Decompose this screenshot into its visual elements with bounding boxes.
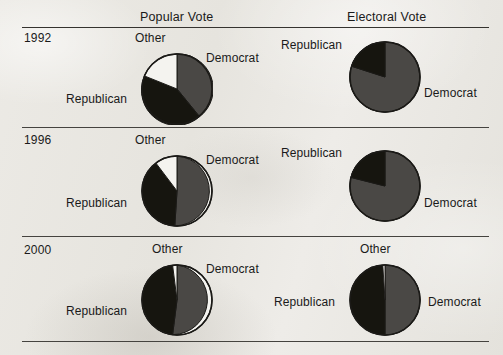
slice-label-1992-popular-democrat: Democrat	[206, 51, 259, 65]
pie-1992-popular-vote	[141, 53, 213, 125]
slice-label-1996-popular-republican: Republican	[66, 196, 127, 210]
slice-label-2000-electoral-other: Other	[360, 242, 391, 256]
year-label-2000: 2000	[24, 243, 52, 257]
year-label-1996: 1996	[24, 133, 52, 147]
pie-1996-electoral-vote	[349, 150, 421, 222]
slice-label-2000-popular-democrat: Democrat	[206, 262, 259, 276]
pie-1992-electoral-vote	[349, 41, 421, 113]
rule-top	[22, 27, 489, 28]
year-label-1992: 1992	[24, 31, 52, 45]
slice-label-1996-popular-other: Other	[135, 133, 166, 147]
slice-label-2000-popular-other: Other	[152, 242, 183, 256]
slice-label-1996-electoral-democrat: Democrat	[424, 196, 477, 210]
rule-after-1992	[22, 127, 489, 128]
slice-label-2000-electoral-democrat: Democrat	[428, 295, 481, 309]
slice-label-2000-electoral-republican: Republican	[274, 295, 335, 309]
slice-label-1992-popular-republican: Republican	[66, 92, 127, 106]
column-header-popular-vote: Popular Vote	[140, 10, 213, 24]
slice-label-1992-electoral-republican: Republican	[281, 38, 342, 52]
pie-1996-popular-vote	[141, 155, 213, 227]
rule-after-1996	[22, 236, 489, 237]
election-pie-chart-figure: Popular Vote Electoral Vote 1992 1996 20…	[0, 0, 503, 355]
pie-2000-popular-vote	[141, 264, 213, 336]
slice-label-1996-electoral-republican: Republican	[281, 146, 342, 160]
slice-label-1992-popular-other: Other	[135, 31, 166, 45]
slice-label-1992-electoral-democrat: Democrat	[424, 86, 477, 100]
pie-2000-electoral-vote	[349, 264, 421, 336]
slice-label-1996-popular-democrat: Democrat	[206, 153, 259, 167]
rule-bottom	[22, 341, 489, 342]
slice-label-2000-popular-republican: Republican	[66, 304, 127, 318]
column-header-electoral-vote: Electoral Vote	[347, 10, 426, 24]
